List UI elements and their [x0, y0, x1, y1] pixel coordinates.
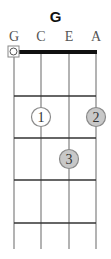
nut — [8, 50, 97, 54]
strings — [14, 52, 96, 249]
svg-text:2: 2 — [93, 110, 100, 125]
frets — [14, 96, 96, 223]
svg-text:1: 1 — [38, 110, 45, 125]
finger-dot-3: 3 — [60, 150, 79, 169]
open-string-icon — [8, 46, 19, 57]
finger-dot-1: 1 — [32, 108, 51, 127]
fretboard-diagram: 1 2 3 — [0, 0, 111, 259]
finger-dot-2: 2 — [87, 108, 106, 127]
svg-text:3: 3 — [66, 152, 73, 167]
